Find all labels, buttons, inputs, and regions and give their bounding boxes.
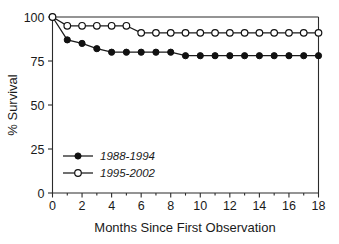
datapoint-1988-1994-m18 xyxy=(315,53,321,59)
x-tick-label-6: 6 xyxy=(138,199,145,213)
datapoint-1995-2002-m0 xyxy=(49,14,56,21)
datapoint-1988-1994-m6 xyxy=(138,49,144,55)
datapoint-1995-2002-m5 xyxy=(123,23,130,30)
datapoint-1988-1994-m2 xyxy=(79,40,85,46)
datapoint-1988-1994-m17 xyxy=(301,53,307,59)
datapoint-1995-2002-m14 xyxy=(256,30,263,37)
datapoint-1988-1994-m5 xyxy=(123,49,129,55)
datapoint-1988-1994-m8 xyxy=(168,49,174,55)
datapoint-1988-1994-m10 xyxy=(197,53,203,59)
x-axis-title: Months Since First Observation xyxy=(94,220,275,235)
datapoint-1988-1994-m11 xyxy=(212,53,218,59)
datapoint-1995-2002-m1 xyxy=(64,23,71,30)
datapoint-1995-2002-m11 xyxy=(212,30,219,37)
legend-marker-1995-2002 xyxy=(75,170,82,177)
y-tick-label-50: 50 xyxy=(31,99,45,113)
datapoint-1988-1994-m13 xyxy=(242,53,248,59)
datapoint-1988-1994-m16 xyxy=(286,53,292,59)
y-tick-label-0: 0 xyxy=(38,187,45,201)
y-tick-label-100: 100 xyxy=(24,11,45,25)
datapoint-1995-2002-m8 xyxy=(167,30,174,37)
datapoint-1995-2002-m16 xyxy=(286,30,293,37)
x-tick-label-2: 2 xyxy=(79,199,86,213)
datapoint-1995-2002-m13 xyxy=(241,30,248,37)
datapoint-1995-2002-m18 xyxy=(315,30,322,37)
datapoint-1988-1994-m4 xyxy=(109,49,115,55)
datapoint-1995-2002-m3 xyxy=(94,23,101,30)
survival-chart-figure: 0255075100 024681012141618 Months Since … xyxy=(0,0,339,244)
datapoint-1988-1994-m15 xyxy=(271,53,277,59)
datapoint-1988-1994-m1 xyxy=(64,37,70,43)
datapoint-1988-1994-m9 xyxy=(182,53,188,59)
x-tick-label-0: 0 xyxy=(49,199,56,213)
datapoint-1995-2002-m9 xyxy=(182,30,189,37)
x-tick-label-18: 18 xyxy=(312,199,326,213)
x-tick-label-16: 16 xyxy=(282,199,296,213)
x-tick-label-4: 4 xyxy=(108,199,115,213)
datapoint-1988-1994-m3 xyxy=(94,46,100,52)
datapoint-1995-2002-m17 xyxy=(300,30,307,37)
x-tick-label-14: 14 xyxy=(252,199,266,213)
x-tick-label-12: 12 xyxy=(223,199,237,213)
x-tick-label-10: 10 xyxy=(193,199,207,213)
datapoint-1995-2002-m2 xyxy=(79,23,86,30)
y-axis-title: % Survival xyxy=(5,74,20,136)
survival-line-chart: 0255075100 024681012141618 Months Since … xyxy=(0,0,339,244)
datapoint-1995-2002-m7 xyxy=(153,30,160,37)
x-tick-label-8: 8 xyxy=(167,199,174,213)
datapoint-1995-2002-m12 xyxy=(227,30,234,37)
datapoint-1988-1994-m12 xyxy=(227,53,233,59)
datapoint-1988-1994-m14 xyxy=(256,53,262,59)
legend-label-1995-2002: 1995-2002 xyxy=(100,167,156,179)
y-tick-label-75: 75 xyxy=(31,55,45,69)
y-tick-label-25: 25 xyxy=(31,143,45,157)
datapoint-1995-2002-m4 xyxy=(108,23,115,30)
datapoint-1995-2002-m15 xyxy=(271,30,278,37)
datapoint-1995-2002-m6 xyxy=(138,30,145,37)
legend-marker-1988-1994 xyxy=(75,153,81,159)
datapoint-1995-2002-m10 xyxy=(197,30,204,37)
legend-label-1988-1994: 1988-1994 xyxy=(100,150,155,162)
datapoint-1988-1994-m7 xyxy=(153,49,159,55)
